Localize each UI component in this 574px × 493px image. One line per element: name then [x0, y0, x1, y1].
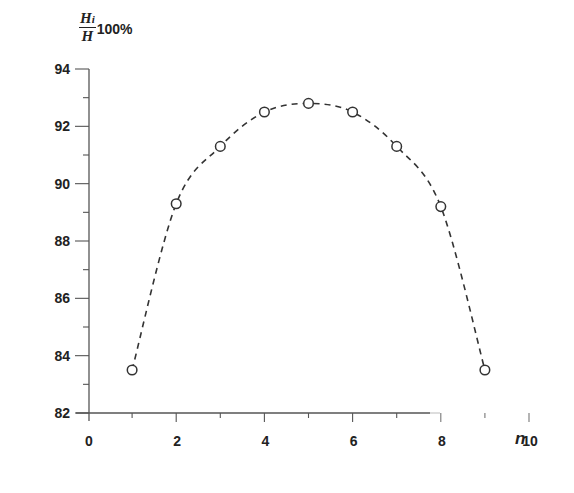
data-point-marker	[260, 107, 270, 117]
x-tick-label: 4	[262, 433, 270, 449]
y-tick-label: 88	[54, 233, 70, 249]
data-point-marker	[392, 142, 402, 152]
data-series	[127, 99, 489, 375]
line-chart: 82848688909294 0246810 n	[0, 0, 574, 493]
x-tick-label: 2	[173, 433, 181, 449]
data-point-marker	[127, 365, 137, 375]
y-tick-label: 82	[54, 405, 70, 421]
y-tick-label: 90	[54, 176, 70, 192]
x-tick-label: 6	[350, 433, 358, 449]
x-axis-ticks: 0246810	[85, 413, 538, 449]
data-point-marker	[171, 199, 181, 209]
data-point-marker	[304, 99, 314, 109]
data-point-marker	[216, 142, 226, 152]
y-tick-label: 92	[54, 118, 70, 134]
data-point-marker	[348, 107, 358, 117]
data-point-marker	[480, 365, 490, 375]
x-axis-label: n	[515, 429, 525, 448]
y-tick-label: 94	[54, 61, 70, 77]
x-tick-label: 8	[438, 433, 446, 449]
series-line	[132, 103, 485, 370]
y-axis-ticks: 82848688909294	[54, 61, 89, 421]
data-point-marker	[436, 202, 446, 212]
x-tick-label: 0	[85, 433, 93, 449]
y-tick-label: 86	[54, 290, 70, 306]
y-tick-label: 84	[54, 348, 70, 364]
